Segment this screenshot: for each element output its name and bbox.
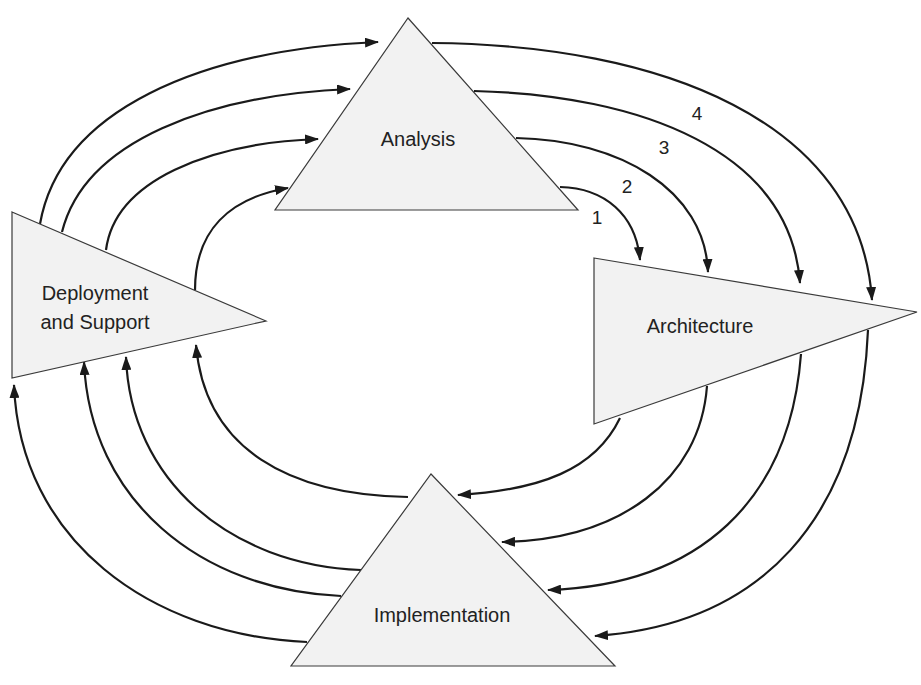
node-deployment-support: Deployment and Support [12, 212, 266, 378]
iteration-label-1: 1 [592, 207, 603, 228]
flow-arch-impl-1 [458, 418, 620, 495]
implementation-label: Implementation [374, 604, 511, 626]
analysis-label: Analysis [381, 128, 455, 150]
node-architecture: Architecture [594, 258, 917, 424]
flow-impl-deploy-1 [196, 345, 408, 497]
flow-impl-deploy-2 [126, 357, 361, 570]
iteration-label-2: 2 [622, 176, 633, 197]
iteration-label-4: 4 [692, 103, 703, 124]
flow-impl-deploy-4 [14, 385, 307, 642]
architecture-label: Architecture [647, 315, 754, 337]
iteration-label-3: 3 [659, 137, 670, 158]
node-implementation: Implementation [291, 474, 615, 666]
architecture-triangle [594, 258, 917, 424]
deployment-label-line1: Deployment [42, 282, 149, 304]
deployment-label-line2: and Support [41, 311, 150, 333]
flow-deploy-analysis-1 [195, 188, 288, 290]
iterative-cycle-diagram: Analysis Architecture Deployment and Sup… [0, 0, 921, 685]
implementation-triangle [291, 474, 615, 666]
